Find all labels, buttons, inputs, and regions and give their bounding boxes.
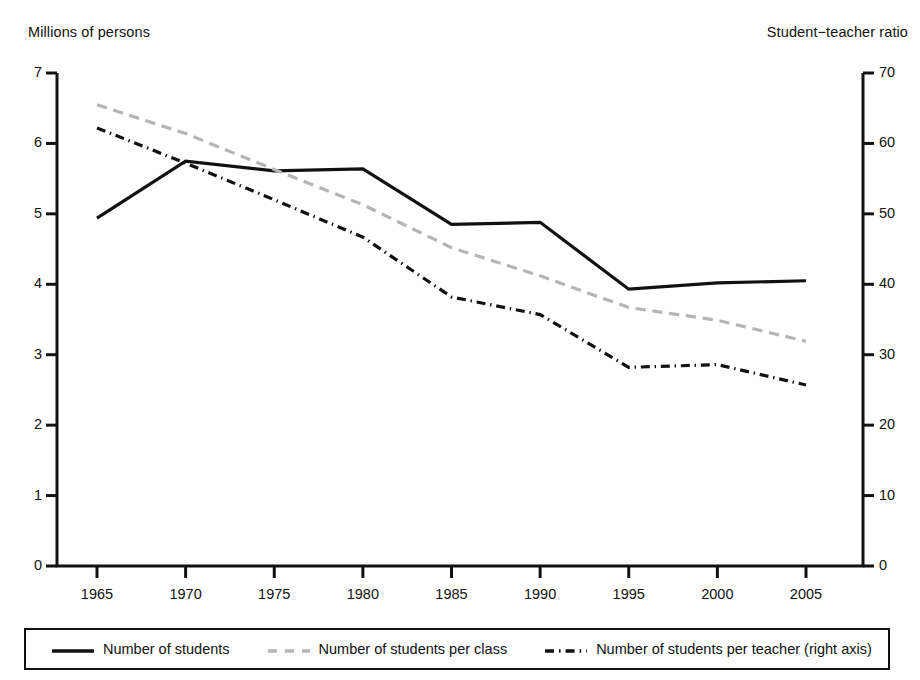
legend-label: Number of students [103,641,230,657]
legend-swatch-dashed-icon [268,643,310,655]
x-axis-tick-label: 2005 [776,586,836,602]
right-axis-tick-label: 10 [879,487,915,503]
legend-swatch-dashdot-icon [545,643,587,655]
right-axis-tick-label: 40 [879,275,915,291]
left-axis-tick-label: 3 [12,346,42,362]
left-axis-tick-label: 1 [12,487,42,503]
left-axis-tick-label: 4 [12,275,42,291]
right-axis-tick-label: 0 [879,557,915,573]
x-axis-tick-label: 1995 [599,586,659,602]
series-line-2 [97,128,806,385]
left-axis-tick-label: 0 [12,557,42,573]
left-axis-tick-label: 2 [12,416,42,432]
x-axis-tick-label: 1975 [244,586,304,602]
legend-item-1[interactable]: Number of students per class [268,641,508,657]
series-lines [97,105,806,385]
right-axis-tick-label: 70 [879,64,915,80]
right-axis-tick-label: 30 [879,346,915,362]
right-axis-tick-label: 60 [879,134,915,150]
chart-legend: Number of studentsNumber of students per… [24,628,890,670]
legend-item-0[interactable]: Number of students [52,641,230,657]
legend-swatch-solid-icon [52,643,94,655]
series-line-0 [97,161,806,289]
axis-lines [46,73,874,578]
x-axis-tick-label: 1985 [422,586,482,602]
legend-item-2[interactable]: Number of students per teacher (right ax… [545,641,872,657]
legend-label: Number of students per teacher (right ax… [596,641,872,657]
x-axis-tick-label: 1970 [156,586,216,602]
x-axis-tick-label: 1990 [510,586,570,602]
left-axis-tick-label: 6 [12,134,42,150]
right-axis-tick-label: 20 [879,416,915,432]
left-axis-tick-label: 7 [12,64,42,80]
chart-container: Millions of persons Student−teacher rati… [0,0,920,680]
x-axis-tick-label: 1980 [333,586,393,602]
x-axis-tick-label: 1965 [67,586,127,602]
plot-area [0,0,920,680]
x-axis-tick-label: 2000 [687,586,747,602]
right-axis-tick-label: 50 [879,205,915,221]
left-axis-tick-label: 5 [12,205,42,221]
legend-label: Number of students per class [319,641,508,657]
